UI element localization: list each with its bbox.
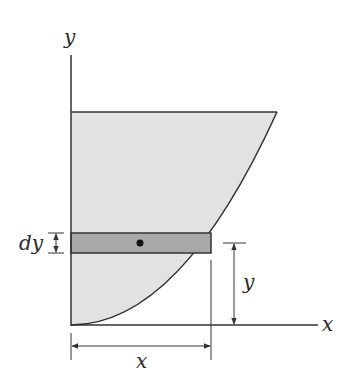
strip-height-label: y: [242, 270, 255, 294]
centroid-dot: [137, 240, 144, 247]
x-axis-label: x: [322, 312, 333, 336]
dy-label: dy: [19, 231, 44, 255]
y-axis-label: y: [63, 25, 76, 49]
area-diagram: y x dy y x: [0, 0, 353, 389]
strip-length-label: x: [136, 349, 147, 373]
